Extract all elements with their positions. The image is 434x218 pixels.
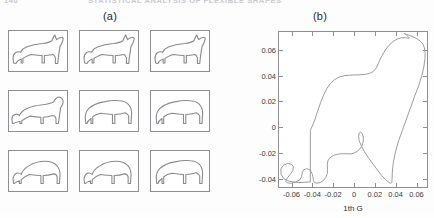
silhouette-outline-bear-like-stocky — [151, 91, 209, 131]
silhouette-outline-dog-standing-long-body — [9, 91, 67, 131]
y-tick-mark — [423, 179, 427, 180]
y-tick-mark — [423, 50, 427, 51]
silhouette-box-cell-r1c3 — [150, 30, 210, 72]
panel-a-silhouette-grid — [8, 30, 210, 204]
x-tick-mark — [312, 32, 313, 36]
panel-b-plot: 0.060.040.020-0.02-0.04-0.06-0.04-0.0200… — [255, 28, 434, 218]
x-tick-mark — [312, 183, 313, 187]
silhouette-box-cell-r3c1 — [8, 150, 68, 192]
silhouette-outline-dog-standing-pointed-ears — [80, 31, 138, 71]
y-tick-label: -0.02 — [256, 148, 276, 157]
x-tick-mark — [292, 32, 293, 36]
scan-edge-noise — [0, 212, 434, 218]
silhouette-box-cell-r3c2 — [79, 150, 139, 192]
y-tick-mark — [279, 76, 283, 77]
y-tick-label: -0.04 — [256, 174, 276, 183]
silhouette-box-cell-r2c3 — [150, 90, 210, 132]
silhouette-outline-dog-retriever-arched-back — [9, 151, 67, 191]
x-tick-label: -0.06 — [283, 190, 300, 199]
x-tick-label: 0.06 — [409, 190, 424, 199]
figure-page: 140 STATISTICAL ANALYSIS OF FLEXIBLE SHA… — [0, 0, 434, 218]
x-tick-mark — [333, 183, 334, 187]
x-tick-label: 0 — [352, 190, 356, 199]
y-tick-mark — [423, 127, 427, 128]
running-header-title: STATISTICAL ANALYSIS OF FLEXIBLE SHAPES — [88, 0, 282, 5]
x-tick-mark — [375, 183, 376, 187]
x-tick-mark — [354, 32, 355, 36]
silhouette-outline-bear-like-stocky — [151, 151, 209, 191]
silhouette-outline-dog-standing-pointed-ears — [9, 31, 67, 71]
x-tick-mark — [292, 183, 293, 187]
y-tick-mark — [279, 127, 283, 128]
page-folio-number: 140 — [4, 0, 18, 5]
silhouette-box-cell-r1c1 — [8, 30, 68, 72]
silhouette-box-cell-r2c1 — [8, 90, 68, 132]
x-tick-mark — [417, 32, 418, 36]
y-tick-mark — [279, 50, 283, 51]
x-tick-label: 0.04 — [388, 190, 403, 199]
x-tick-mark — [396, 32, 397, 36]
x-tick-label: 0.02 — [368, 190, 383, 199]
y-tick-label: 0 — [256, 123, 276, 132]
y-tick-label: 0.06 — [256, 46, 276, 55]
x-tick-mark — [375, 32, 376, 36]
y-tick-mark — [423, 101, 427, 102]
y-tick-mark — [279, 101, 283, 102]
plot-axes-frame: 0.060.040.020-0.02-0.04-0.06-0.04-0.0200… — [278, 31, 428, 188]
panel-b-caption: (b) — [313, 10, 327, 22]
closed-contour-curve — [279, 32, 427, 187]
x-tick-label: -0.04 — [304, 190, 321, 199]
silhouette-outline-dog-standing-pointed-ears — [151, 31, 209, 71]
silhouette-outline-dog-retriever-arched-back — [80, 151, 138, 191]
y-tick-mark — [423, 76, 427, 77]
x-tick-label: -0.02 — [325, 190, 342, 199]
y-tick-mark — [279, 153, 283, 154]
silhouette-outline-bear-like-stocky — [80, 91, 138, 131]
x-tick-mark — [396, 183, 397, 187]
silhouette-box-cell-r1c2 — [79, 30, 139, 72]
silhouette-box-cell-r2c2 — [79, 90, 139, 132]
x-tick-mark — [333, 32, 334, 36]
running-header: 140 STATISTICAL ANALYSIS OF FLEXIBLE SHA… — [0, 0, 434, 6]
panel-a-caption: (a) — [103, 10, 117, 22]
y-tick-mark — [279, 179, 283, 180]
y-tick-label: 0.04 — [256, 71, 276, 80]
y-tick-label: 0.02 — [256, 97, 276, 106]
silhouette-box-cell-r3c3 — [150, 150, 210, 192]
x-tick-mark — [417, 183, 418, 187]
y-tick-mark — [423, 153, 427, 154]
x-tick-mark — [354, 183, 355, 187]
